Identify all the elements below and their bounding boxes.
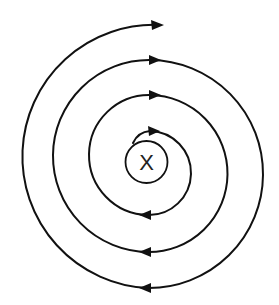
arrow-left-icon <box>139 283 151 293</box>
spiral-left-arc-2 <box>53 60 150 252</box>
arrow-right-icon <box>149 90 161 100</box>
spiral-right-arc-1 <box>148 131 191 215</box>
arrow-right-icon <box>149 55 161 65</box>
arrow-left-icon <box>139 247 151 257</box>
spiral-right-arc-3 <box>148 60 263 288</box>
spiral-right-arc-2 <box>148 95 228 252</box>
arrow-left-icon <box>139 210 151 220</box>
arrow-right-icon <box>151 20 164 30</box>
arrow-right-icon <box>148 126 160 136</box>
spiral-diagram: X <box>0 0 279 305</box>
center-label: X <box>139 150 154 175</box>
